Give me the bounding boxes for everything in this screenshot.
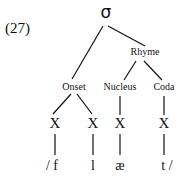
onset-node: Onset — [62, 81, 85, 92]
segment: æ — [115, 158, 124, 174]
segment: / f — [46, 158, 58, 174]
segment: l — [91, 158, 95, 174]
timing-slot: X — [159, 115, 170, 132]
timing-slot: X — [88, 115, 99, 132]
example-number: (27) — [5, 20, 30, 37]
timing-slot: X — [115, 115, 126, 132]
rhyme-node: Rhyme — [131, 46, 160, 57]
segment: t / — [161, 158, 172, 174]
syllable-node: σ — [101, 2, 112, 22]
timing-slot: X — [50, 115, 61, 132]
coda-node: Coda — [153, 81, 174, 92]
syllable-tree-diagram: (27) σ Rhyme Onset Nucleus Coda X X X X … — [0, 0, 185, 183]
nucleus-node: Nucleus — [104, 81, 137, 92]
